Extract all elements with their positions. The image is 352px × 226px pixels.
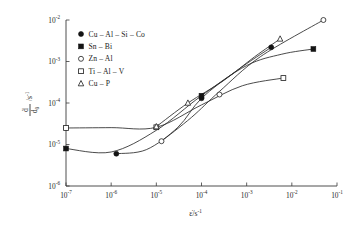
marker-sn-bi-1: [199, 93, 204, 98]
y-tick-label-1: 10-3: [48, 56, 60, 66]
marker-cu-al-si-co-0: [114, 151, 119, 156]
marker-sn-bi-0: [64, 146, 69, 151]
legend-label-0: Cu – Al – Si – Co: [89, 30, 146, 39]
x-tick-label-6: 10-1: [331, 189, 343, 199]
legend-marker-0: [79, 32, 84, 37]
marker-cu-p-1: [185, 100, 190, 105]
x-axis-title: ε̇/s-1: [189, 208, 202, 218]
y-tick-label-4: 10-6: [48, 180, 60, 190]
x-tick-label-5: 10-2: [286, 189, 298, 199]
chart-legend: Cu – Al – Si – CoSn – BiZn – AlTi – Al –…: [78, 30, 145, 89]
legend-marker-4: [78, 81, 83, 86]
legend-marker-1: [79, 44, 84, 49]
x-tick-label-0: 10-7: [60, 189, 72, 199]
x-tick-label-1: 10-6: [105, 189, 117, 199]
x-tick-label-3: 10-4: [196, 189, 208, 199]
y-axis-title-unit: /s-1: [24, 91, 34, 101]
legend-label-1: Sn – Bi: [89, 42, 113, 51]
y-tick-label-3: 10-5: [48, 139, 60, 149]
curve-sn-bi: [66, 49, 313, 153]
marker-ti-al-v-0: [64, 126, 69, 131]
curve-zn-al: [161, 20, 323, 141]
curve-cu-al-si-co: [116, 47, 271, 153]
legend-label-2: Zn – Al: [89, 54, 113, 63]
marker-sn-bi-2: [311, 47, 316, 52]
curve-cu-p: [156, 39, 280, 127]
legend-marker-2: [79, 56, 84, 61]
marker-zn-al-0: [159, 139, 164, 144]
marker-zn-al-2: [321, 18, 326, 23]
x-tick-label-4: 10-3: [241, 189, 253, 199]
legend-label-3: Ti – Al – V: [89, 67, 125, 76]
y-axis-title: ḋd0/s-1: [21, 91, 40, 116]
y-axis-title-numerator: ḋ: [21, 108, 30, 112]
y-tick-label-0: 10-2: [48, 14, 60, 24]
figure-container: 10-710-610-510-410-310-210-110-210-310-4…: [0, 0, 352, 226]
marker-zn-al-1: [217, 92, 222, 97]
marker-cu-al-si-co-2: [269, 45, 274, 50]
x-tick-label-2: 10-5: [150, 189, 162, 199]
marker-ti-al-v-2: [281, 76, 286, 81]
y-axis-title-denominator: d0: [30, 106, 40, 113]
legend-marker-3: [79, 69, 84, 74]
marker-cu-p-2: [277, 36, 282, 41]
y-tick-label-2: 10-4: [48, 97, 60, 107]
legend-label-4: Cu – P: [89, 79, 111, 88]
log-log-chart: 10-710-610-510-410-310-210-110-210-310-4…: [0, 0, 352, 226]
